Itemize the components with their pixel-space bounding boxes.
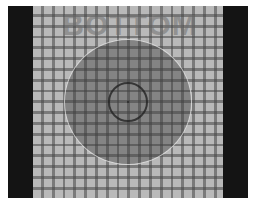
gray-disc [65, 40, 191, 164]
center-dot [127, 101, 129, 103]
test-target-frame: BOTTOM [8, 6, 248, 198]
grid-target: BOTTOM [33, 6, 223, 198]
bottom-label: BOTTOM [45, 10, 215, 40]
